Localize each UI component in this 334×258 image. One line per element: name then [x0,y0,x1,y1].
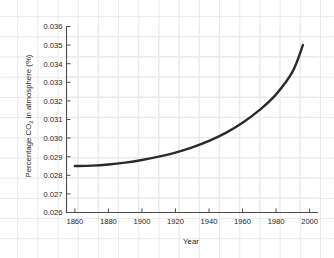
chart-svg: 18601880190019201940196019802000 0.0260.… [0,0,334,258]
y-tick-label: 0.032 [43,97,62,106]
y-tick-label: 0.029 [43,153,62,162]
y-axis-tick-labels: 0.0260.0270.0280.0290.0300.0310.0320.033… [43,22,62,217]
x-axis-title: Year [183,237,199,246]
x-tick-label: 1880 [100,217,117,226]
x-tick-label: 1920 [167,217,184,226]
y-axis-title: Percentage CO2 in atmosphere (%) [24,54,34,177]
plot-gridlines [67,27,319,213]
co2-curve [75,45,303,166]
y-axis-ticks [67,27,71,213]
x-tick-label: 1980 [268,217,285,226]
y-tick-label: 0.027 [43,190,62,199]
x-tick-label: 1960 [234,217,251,226]
x-tick-label: 1860 [66,217,83,226]
x-tick-label: 1900 [133,217,150,226]
x-axis-tick-labels: 18601880190019201940196019802000 [66,217,318,226]
y-tick-label: 0.033 [43,78,62,87]
x-tick-label: 2000 [301,217,318,226]
co2-line-chart: 18601880190019201940196019802000 0.0260.… [0,0,334,258]
y-tick-label: 0.035 [43,41,62,50]
y-tick-label: 0.031 [43,115,62,124]
x-axis-ticks [75,209,310,213]
y-tick-label: 0.030 [43,134,62,143]
y-tick-label: 0.034 [43,60,62,69]
y-tick-label: 0.028 [43,171,62,180]
y-tick-label: 0.026 [43,208,62,217]
y-tick-label: 0.036 [43,22,62,31]
x-tick-label: 1940 [201,217,218,226]
